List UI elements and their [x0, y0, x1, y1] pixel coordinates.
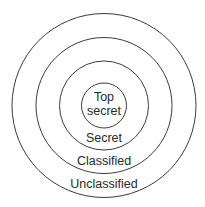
top-secret-label-line2: secret	[87, 104, 122, 118]
unclassified-label: Unclassified	[70, 177, 137, 191]
classification-levels-diagram: Top secret Secret Classified Unclassifie…	[0, 0, 205, 207]
secret-label: Secret	[86, 131, 123, 145]
classified-label: Classified	[77, 154, 131, 168]
top-secret-label-line1: Top	[94, 90, 114, 104]
